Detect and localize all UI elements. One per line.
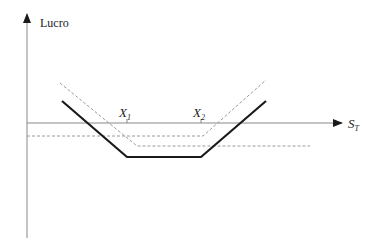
strike-2-label: X2 (192, 105, 205, 122)
dashed-call-payoff (27, 80, 266, 136)
x-axis-label: ST (348, 116, 360, 133)
payoff-diagram: Lucro ST X1 X2 (0, 0, 376, 248)
strike-1-label: X1 (118, 105, 131, 122)
dashed-put-payoff (60, 83, 310, 146)
y-axis-label: Lucro (40, 16, 69, 30)
